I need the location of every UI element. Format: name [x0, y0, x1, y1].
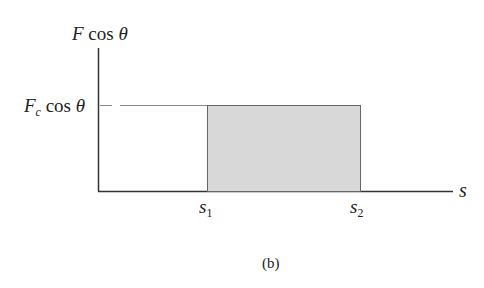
tick-s2-sub: 2: [357, 206, 363, 220]
work-area-rectangle: [208, 106, 361, 192]
tick-label-s2: s2: [350, 197, 363, 219]
level-label-var: F: [24, 95, 36, 116]
level-label: Fc cos θ: [24, 96, 85, 118]
level-label-angle: θ: [76, 95, 85, 116]
y-axis-label-angle: θ: [118, 23, 127, 44]
level-label-sub: c: [36, 105, 41, 119]
figure-caption: (b): [262, 256, 280, 271]
y-axis-label: F cos θ: [72, 24, 128, 43]
y-axis-label-func: cos: [88, 23, 113, 44]
tick-s1-sub: 1: [206, 206, 212, 220]
x-axis-label: s: [459, 180, 467, 200]
level-label-func: cos: [46, 95, 71, 116]
tick-label-s1: s1: [199, 197, 212, 219]
y-axis-label-var: F: [72, 23, 84, 44]
